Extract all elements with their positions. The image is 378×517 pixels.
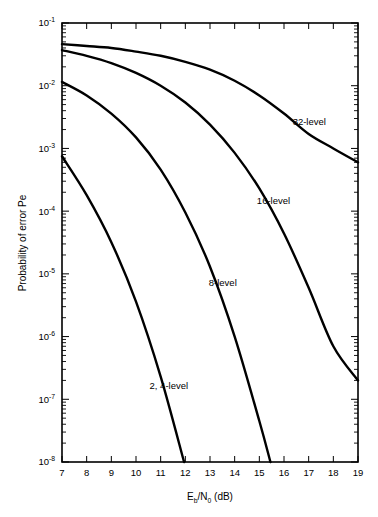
x-tick-label: 12	[180, 467, 191, 478]
y-tick-label: 10-8	[38, 455, 55, 467]
y-tick-label: 10-6	[38, 330, 55, 342]
x-tick-label: 19	[353, 467, 364, 478]
y-tick-label: 10-1	[38, 16, 55, 28]
curve-label-2-4-level: 2, 4-level	[150, 380, 189, 391]
y-tick-label: 10-4	[38, 205, 55, 217]
x-axis-tick-labels: 78910111213141516171819	[59, 467, 363, 478]
y-axis-major-ticks	[62, 23, 358, 462]
x-tick-label: 7	[59, 467, 64, 478]
data-curves	[62, 44, 358, 462]
y-tick-label: 10-2	[38, 79, 55, 91]
x-tick-label: 18	[328, 467, 339, 478]
x-tick-label: 10	[131, 467, 142, 478]
curve-16-level	[62, 50, 358, 380]
x-axis-title: Eb/N0 (dB)	[187, 491, 233, 504]
x-tick-label: 17	[303, 467, 314, 478]
x-tick-label: 11	[156, 467, 166, 478]
curve-label-16-level: 16-level	[257, 195, 290, 206]
probability-of-error-plot: 10-110-210-310-410-510-610-710-8 7891011…	[0, 0, 378, 517]
x-tick-label: 13	[205, 467, 216, 478]
x-tick-label: 9	[109, 467, 114, 478]
curve-8-level	[62, 82, 270, 462]
x-tick-label: 8	[84, 467, 89, 478]
curve-label-8-level: 8-level	[209, 277, 237, 288]
curve-label-32-level: 32-level	[293, 116, 326, 127]
x-axis-top-ticks	[62, 23, 358, 29]
x-tick-label: 16	[279, 467, 290, 478]
y-axis-tick-labels: 10-110-210-310-410-510-610-710-8	[38, 16, 55, 467]
y-tick-label: 10-3	[38, 142, 55, 154]
y-axis-title: Probability of error Pe	[17, 194, 28, 291]
x-tick-label: 14	[229, 467, 240, 478]
chart-figure: 10-110-210-310-410-510-610-710-8 7891011…	[0, 0, 378, 517]
plot-frame	[62, 23, 358, 462]
curve-2-4-level	[62, 156, 184, 462]
x-tick-label: 15	[254, 467, 265, 478]
x-axis-major-ticks	[62, 456, 358, 462]
y-tick-label: 10-5	[38, 267, 55, 279]
y-tick-label: 10-7	[38, 393, 55, 405]
